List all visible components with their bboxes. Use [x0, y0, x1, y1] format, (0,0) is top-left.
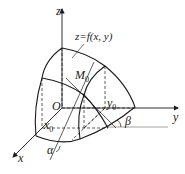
- y-axis-label: y: [173, 111, 178, 123]
- origin-label: O: [52, 100, 61, 112]
- surface-label: z=f(x, y): [75, 31, 112, 42]
- m0-label: M0: [75, 69, 89, 84]
- beta-arc: [117, 120, 121, 127]
- y0-subscript: 0: [112, 103, 116, 112]
- m0-subscript: 0: [85, 75, 89, 84]
- x0-subscript: 0: [49, 125, 53, 134]
- z-axis-label: z: [56, 5, 61, 17]
- point-m0: [83, 94, 85, 96]
- alpha-label: α: [47, 144, 53, 156]
- x0-label: x0: [44, 119, 53, 134]
- m0-letter: M: [75, 68, 85, 82]
- surface-diagram: z y x O z=f(x, y) M0 y0 x0 β α: [0, 0, 185, 174]
- beta-label: β: [125, 115, 131, 127]
- alpha-arc: [56, 146, 60, 152]
- diagram-canvas: [0, 0, 185, 174]
- x-axis-label: x: [18, 152, 23, 164]
- y0-label: y0: [107, 97, 116, 112]
